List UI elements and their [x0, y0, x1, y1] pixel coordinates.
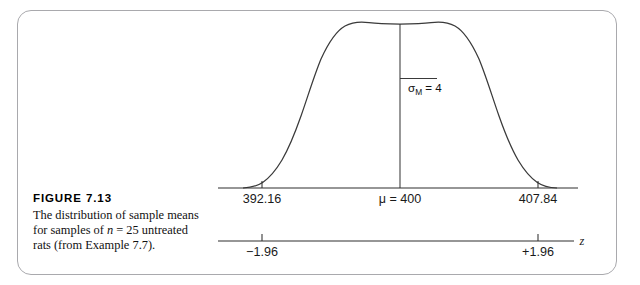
sigma-equals-value: = 4: [425, 81, 442, 94]
tick-label-392-16: 392.16: [243, 192, 282, 206]
figure-container: FIGURE 7.13 The distribution of sample m…: [0, 0, 640, 285]
tick-label-407-84: 407.84: [519, 192, 558, 206]
tick-label-z-neg-1-96: −1.96: [246, 245, 278, 259]
sigma-subscript: M: [415, 87, 422, 97]
distribution-plot: σM= 4 392.16 μ = 400 407.84 −1.96 +1.96 …: [0, 0, 640, 285]
sigma-symbol: σ: [408, 81, 415, 94]
z-axis-title: z: [579, 234, 585, 248]
sigma-m-label: σM= 4: [408, 81, 442, 97]
mean-axis-label: μ = 400: [379, 192, 422, 206]
tick-label-z-pos-1-96: +1.96: [522, 245, 554, 259]
